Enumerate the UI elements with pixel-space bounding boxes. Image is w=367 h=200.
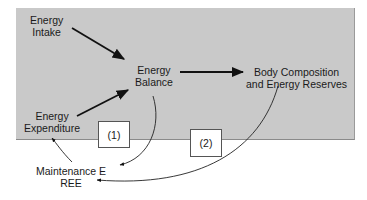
arrow-intake-to-balance	[72, 28, 124, 59]
label-box-2: (2)	[190, 129, 222, 157]
arrow-expenditure-to-balance	[77, 90, 128, 116]
node-energy-intake: Energy Intake	[30, 14, 63, 38]
arrow-maintenance-to-expenditure	[52, 138, 72, 162]
node-body-composition: Body Composition and Energy Reserves	[246, 66, 347, 90]
node-energy-balance: Energy Balance	[135, 64, 173, 88]
node-energy-expenditure: Energy Expenditure	[24, 110, 80, 134]
node-maintenance: Maintenance E REE	[36, 165, 106, 189]
label-box-1: (1)	[98, 121, 130, 148]
